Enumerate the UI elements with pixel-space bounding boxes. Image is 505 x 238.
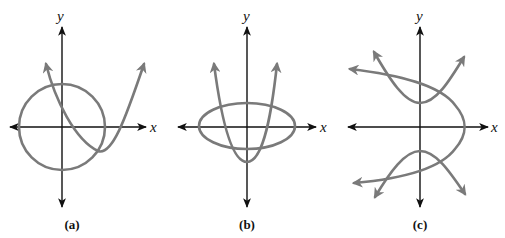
panel-label-a: (a): [64, 217, 79, 232]
panel-c: x y (c): [348, 8, 498, 232]
x-axis-label: x: [319, 119, 327, 135]
panel-b: x y (b): [178, 8, 327, 232]
parabola-curve: [46, 64, 144, 151]
hyperbola-upper-branch: [374, 52, 464, 103]
panel-label-b: (b): [239, 217, 255, 232]
x-axis-label: x: [490, 119, 498, 135]
sideways-parabola-curve: [350, 69, 465, 183]
x-axis-label: x: [149, 119, 157, 135]
panel-a: x y (a): [10, 8, 157, 232]
y-axis-label: y: [55, 8, 64, 24]
figure-three-panels: x y (a) x y (b) x y (c): [0, 0, 505, 238]
y-axis-label: y: [241, 8, 250, 24]
panel-label-c: (c): [413, 217, 427, 232]
y-axis-label: y: [414, 8, 423, 24]
